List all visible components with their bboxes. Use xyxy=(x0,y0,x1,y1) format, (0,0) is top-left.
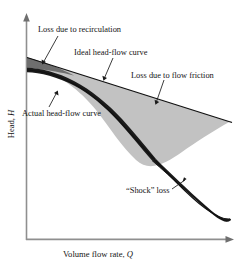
leader-actual-arrow xyxy=(54,90,59,95)
annotation-ideal-head-flow-curve: Ideal head-flow curve xyxy=(74,49,147,57)
x-axis-arrow xyxy=(226,236,235,243)
annotation-loss-due-to-recirculation: Loss due to recirculation xyxy=(38,26,121,34)
y-axis-arrow xyxy=(23,13,30,22)
figure-canvas xyxy=(0,0,246,266)
annotation-loss-due-to-flow-friction: Loss due to flow friction xyxy=(131,72,214,80)
annotation-actual-head-flow-curve: Actual head-flow curve xyxy=(22,110,101,118)
x-axis-label-text: Volume flow rate, xyxy=(63,249,127,259)
x-axis-label-symbol: Q xyxy=(127,249,133,259)
shaded-regions xyxy=(27,58,232,222)
leader-shock-arrow xyxy=(182,177,186,182)
y-axis-label: Head, H xyxy=(6,96,16,152)
y-axis-label-text: Head, xyxy=(6,116,16,138)
annotation-shock-loss: “Shock” loss xyxy=(126,187,170,195)
x-axis-label: Volume flow rate, Q xyxy=(63,249,133,259)
leader-recirculation xyxy=(43,36,58,63)
leader-ideal xyxy=(104,58,113,79)
leader-actual xyxy=(49,92,57,107)
y-axis-label-symbol: H xyxy=(6,110,16,116)
